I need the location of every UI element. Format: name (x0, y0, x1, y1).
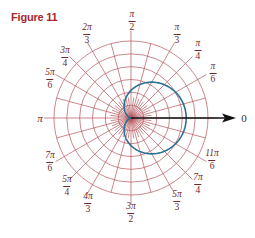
numerator: π (175, 22, 180, 32)
polar-axis (131, 114, 236, 123)
grid-radial-line (131, 118, 193, 180)
numerator: π (196, 38, 201, 48)
denominator: 2 (129, 21, 136, 33)
label-angle-pi-over-3: π3 (174, 23, 181, 45)
label-text: π (37, 112, 43, 124)
numerator: 5π (62, 174, 72, 184)
numerator: 3π (60, 45, 70, 55)
grid-radial-line (69, 56, 131, 118)
label-angle-4pi-over-3: 4π3 (82, 192, 94, 214)
label-angle-3pi-over-4: 3π4 (59, 46, 71, 68)
label-angle-5pi-over-4: 5π4 (61, 175, 73, 197)
denominator: 6 (210, 73, 217, 85)
numerator: 4π (83, 191, 93, 201)
label-angle-pi-over-6: π6 (210, 62, 217, 84)
denominator: 4 (62, 57, 69, 69)
label-angle-5pi-over-3: 5π3 (171, 190, 183, 212)
denominator: 2 (128, 213, 135, 225)
denominator: 3 (174, 34, 181, 46)
label-angle-5pi-over-6: 5π6 (44, 68, 56, 90)
label-angle-11pi-over-6: 11π6 (204, 149, 220, 171)
numerator: 11π (205, 148, 219, 158)
denominator: 3 (174, 201, 181, 213)
numerator: 3π (126, 201, 136, 211)
numerator: 2π (82, 22, 92, 32)
denominator: 6 (47, 162, 54, 174)
numerator: 5π (172, 189, 182, 199)
denominator: 3 (84, 34, 91, 46)
numerator: π (211, 61, 216, 71)
label-angle-7pi-over-6: 7π6 (44, 151, 56, 173)
numerator: 5π (45, 67, 55, 77)
denominator: 4 (195, 184, 202, 196)
denominator: 4 (64, 186, 71, 198)
grid-radial-line (69, 118, 131, 180)
numerator: 7π (193, 172, 203, 182)
label-angle-pi-over-2: π2 (129, 10, 136, 32)
label-angle-2pi-over-3: 2π3 (81, 23, 93, 45)
label-angle-0: 0 (241, 113, 247, 124)
denominator: 4 (195, 50, 202, 62)
denominator: 6 (209, 160, 216, 172)
denominator: 6 (47, 79, 54, 91)
label-angle-3pi-over-2: 3π2 (125, 202, 137, 224)
label-angle-pi-over-4: π4 (195, 39, 202, 61)
label-angle-pi: π (37, 113, 43, 124)
label-angle-7pi-over-4: 7π4 (192, 173, 204, 195)
grid-radial-line (131, 56, 193, 118)
numerator: π (130, 9, 135, 19)
label-text: 0 (241, 112, 247, 124)
numerator: 7π (45, 150, 55, 160)
denominator: 3 (85, 203, 92, 215)
